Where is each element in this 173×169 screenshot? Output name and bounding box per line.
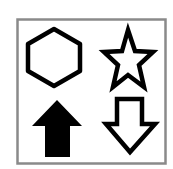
icon-panel (0, 0, 173, 169)
panel-border (18, 20, 166, 164)
